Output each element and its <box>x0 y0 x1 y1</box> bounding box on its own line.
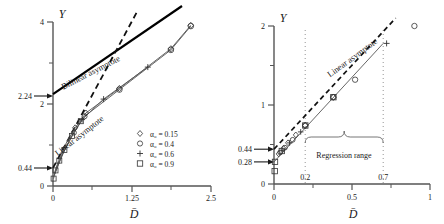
square-icon <box>137 161 142 166</box>
regression-range-start-label: 0.2 <box>300 173 310 182</box>
right-marker-group-square <box>272 95 336 174</box>
regression-range-label: Regression range <box>316 151 372 160</box>
right-marker-group-diamond <box>276 94 336 157</box>
left-x-axis-label: D̄ <box>129 207 139 221</box>
left-y-ticklabel-224: 2.24 <box>18 92 32 101</box>
left-chart-svg: 0 2 4 0.44 2.24 0 1.25 2.5 Y D̄ <box>0 0 222 224</box>
left-x-ticklabel-0: 0 <box>51 194 55 203</box>
right-y-ticklabel-1: 1 <box>261 101 265 110</box>
right-x-ticklabel-05: 0.5 <box>347 193 357 202</box>
right-y-ticklabel-2: 2 <box>261 22 265 31</box>
chart-panel-right: 0 1 2 0.44 0.28 0 0.5 1 0.2 0.7 Y D̄ <box>222 0 444 224</box>
circle-icon <box>137 141 142 146</box>
legend-item-alpha04: α₀ = 0.4 <box>137 140 174 149</box>
right-x-ticklabel-1: 1 <box>428 193 432 202</box>
left-y-axis-label: Y <box>59 7 67 21</box>
left-y-ticklabel-4: 4 <box>40 18 44 27</box>
right-x-axis-label: D̄ <box>348 207 358 221</box>
left-x-ticklabel-25: 2.5 <box>206 194 216 203</box>
left-y-ticklabel-2: 2 <box>40 100 44 109</box>
right-curves <box>274 18 396 162</box>
left-special-tick-044: 0.44 <box>18 164 53 173</box>
right-y-ticklabel-0: 0 <box>261 180 265 189</box>
left-axes <box>47 22 211 192</box>
left-bilinear-asymptote-label: Bilinear asymptote <box>60 53 122 91</box>
legend-item-alpha015: α₀ = 0.15 <box>137 130 177 139</box>
right-y-axis-label: Y <box>280 11 288 25</box>
left-special-tick-224: 2.24 <box>18 92 53 101</box>
right-y-ticklabel-028: 0.28 <box>238 158 252 167</box>
diamond-icon <box>137 131 142 137</box>
legend-item-alpha09: α₀ = 0.9 <box>137 160 174 169</box>
regression-range-brace <box>305 131 383 143</box>
legend-label-alpha09: α₀ = 0.9 <box>150 160 174 169</box>
right-regression-fit-line <box>274 43 383 161</box>
legend-label-alpha06: α₀ = 0.6 <box>150 150 174 159</box>
legend-item-alpha06: α₀ = 0.6 <box>137 150 174 159</box>
plus-icon <box>137 151 143 157</box>
legend-label-alpha04: α₀ = 0.4 <box>150 140 174 149</box>
right-x-ticklabel-0: 0 <box>272 193 276 202</box>
right-chart-svg: 0 1 2 0.44 0.28 0 0.5 1 0.2 0.7 Y D̄ <box>222 0 444 224</box>
right-axes <box>268 26 430 190</box>
regression-range-end-label: 0.7 <box>378 173 388 182</box>
right-special-tick-044: 0.44 <box>238 145 274 154</box>
legend-label-alpha015: α₀ = 0.15 <box>150 130 178 139</box>
figure-root: 0 2 4 0.44 2.24 0 1.25 2.5 Y D̄ <box>0 0 444 224</box>
chart-panel-left: 0 2 4 0.44 2.24 0 1.25 2.5 Y D̄ <box>0 0 222 224</box>
left-legend: α₀ = 0.15 α₀ = 0.4 α₀ = 0.6 α₀ = 0.9 <box>137 130 178 169</box>
right-linear-asymptote-label: Linear asymptote <box>325 36 379 79</box>
left-y-ticklabel-044: 0.44 <box>18 164 32 173</box>
left-x-ticklabel-125: 1.25 <box>125 194 139 203</box>
left-y-ticklabel-0: 0 <box>40 182 44 191</box>
right-y-ticklabel-044: 0.44 <box>238 145 252 154</box>
right-special-tick-028: 0.28 <box>238 158 274 167</box>
right-linear-asymptote-line <box>274 18 396 149</box>
